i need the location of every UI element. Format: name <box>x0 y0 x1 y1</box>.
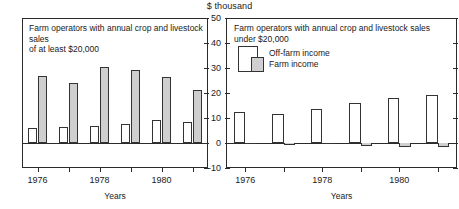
bar-farm-income-1976 <box>245 143 257 144</box>
xtick-1979 <box>361 168 362 172</box>
ytick-10 <box>225 118 230 119</box>
yaxis-label--10: -10 <box>205 164 221 173</box>
zero-baseline <box>22 143 208 144</box>
yaxis-label-0: 0 <box>205 139 221 148</box>
chart-title-left: Farm operators with annual crop and live… <box>29 23 208 55</box>
yaxis-label-10: 10 <box>205 114 221 123</box>
bar-off-farm-income-1981 <box>426 95 438 143</box>
bar-farm-income-1980 <box>162 77 171 143</box>
xtick-1977 <box>69 168 70 172</box>
bar-farm-income-1977 <box>69 83 78 143</box>
ytick-0 <box>225 143 230 144</box>
bar-off-farm-income-1976 <box>234 112 246 143</box>
bar-off-farm-income-1978 <box>311 109 323 143</box>
bar-farm-income-1981 <box>193 90 202 143</box>
xtick-1976 <box>38 168 39 172</box>
xaxis-label-1978: 1978 <box>307 175 337 185</box>
chart-title-right: Farm operators with annual crop and live… <box>234 23 430 44</box>
bar-farm-income-1977 <box>284 143 296 145</box>
bar-off-farm-income-1980 <box>152 120 161 143</box>
bar-farm-income-1980 <box>399 143 411 147</box>
bar-off-farm-income-1981 <box>183 122 192 143</box>
ytick-20 <box>453 93 458 94</box>
xtick-1980 <box>162 168 163 172</box>
ytick-30 <box>225 68 230 69</box>
ytick-0 <box>453 143 458 144</box>
xaxis-label-1980: 1980 <box>384 175 414 185</box>
bar-farm-income-1978 <box>100 67 109 143</box>
xaxis-label-1978: 1978 <box>85 175 115 185</box>
xtick-1981 <box>193 168 194 172</box>
legend-swatch-farm-income <box>251 57 264 72</box>
yaxis-label-20: 20 <box>205 89 221 98</box>
bar-farm-income-1979 <box>361 143 373 146</box>
bar-off-farm-income-1979 <box>349 103 361 143</box>
bar-farm-income-1981 <box>438 143 450 147</box>
ytick-10 <box>453 118 458 119</box>
ytick-50 <box>453 18 458 19</box>
xtick-1979 <box>131 168 132 172</box>
ytick-40 <box>225 43 230 44</box>
bar-off-farm-income-1976 <box>28 128 37 143</box>
bar-off-farm-income-1977 <box>59 127 68 143</box>
xtick-1978 <box>322 168 323 172</box>
xtick-1976 <box>245 168 246 172</box>
bar-farm-income-1979 <box>131 70 140 143</box>
yaxis-label-30: 30 <box>205 64 221 73</box>
bar-off-farm-income-1979 <box>121 124 130 144</box>
ytick-40 <box>453 43 458 44</box>
ytick-30 <box>453 68 458 69</box>
units-label: $ thousand <box>0 1 459 11</box>
xtick-1977 <box>284 168 285 172</box>
legend-label-farm-income: Farm income <box>269 59 319 69</box>
xaxis-label-1976: 1976 <box>230 175 260 185</box>
xtick-1981 <box>438 168 439 172</box>
xtick-1978 <box>100 168 101 172</box>
xaxis-title-left: Years <box>22 191 208 201</box>
bar-farm-income-1976 <box>38 76 47 143</box>
ytick-20 <box>225 93 230 94</box>
xaxis-label-1976: 1976 <box>23 175 53 185</box>
bar-off-farm-income-1980 <box>388 98 400 143</box>
bar-farm-income-1978 <box>322 143 334 144</box>
figure-container: Farm operators with annual crop and live… <box>0 14 459 209</box>
chart-panel-right: Farm operators with annual crop and live… <box>226 18 457 168</box>
zero-baseline <box>226 143 457 144</box>
ytick--10 <box>453 168 458 169</box>
xtick-1980 <box>399 168 400 172</box>
xaxis-label-1980: 1980 <box>147 175 177 185</box>
bar-off-farm-income-1978 <box>90 126 99 144</box>
legend: Off-farm income Farm income <box>238 46 348 76</box>
yaxis-label-40: 40 <box>205 39 221 48</box>
ytick--10 <box>225 168 230 169</box>
chart-panel-left: Farm operators with annual crop and live… <box>22 18 208 168</box>
yaxis-tick-labels: -1001020304050 <box>205 18 223 168</box>
bar-off-farm-income-1977 <box>272 114 284 143</box>
xaxis-title-right: Years <box>226 191 457 201</box>
legend-label-off-farm-income: Off-farm income <box>269 48 330 58</box>
ytick-50 <box>225 18 230 19</box>
yaxis-label-50: 50 <box>205 14 221 23</box>
